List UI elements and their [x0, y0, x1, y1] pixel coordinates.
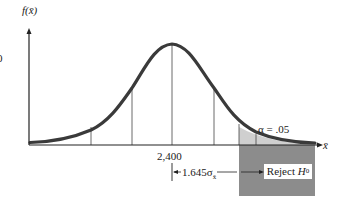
- distance-subscript: x̄: [213, 173, 217, 181]
- distance-text: 1.645σ: [182, 166, 213, 178]
- y-axis-label: f(x̄): [22, 5, 37, 16]
- arrow-left-icon: [173, 170, 178, 174]
- hypothesis-symbol: H: [298, 166, 306, 177]
- hypothesis-subscript: 0: [306, 168, 310, 175]
- alpha-label: α = .05: [258, 124, 289, 135]
- hypothesis-test-diagram: f(x̄) 0 x̄ 2,400 α = .05 1.645σx̄ Reject…: [0, 0, 349, 206]
- y-axis-arrow-icon: [27, 28, 32, 34]
- reject-h0-label: Reject H0: [264, 164, 312, 179]
- mean-label: 2,400: [157, 151, 182, 162]
- reject-text: Reject: [267, 166, 295, 177]
- x-axis-label: x̄: [323, 140, 328, 151]
- edge-label: 0: [0, 53, 3, 64]
- critical-distance-label: 1.645σx̄: [181, 167, 217, 181]
